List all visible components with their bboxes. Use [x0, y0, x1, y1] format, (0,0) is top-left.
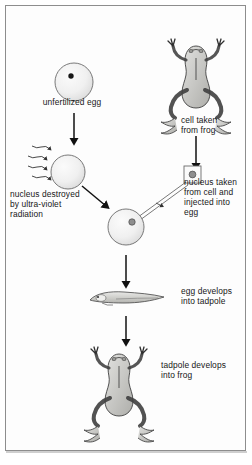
- tadpole-illustration: [90, 292, 164, 305]
- figure-border: unfertilized egg cell taken from frog nu…: [5, 5, 246, 451]
- cloned-frog-illustration: [84, 347, 154, 442]
- diagram-artwork: [6, 6, 247, 452]
- label-cell-taken-from-frog: cell taken from frog: [181, 116, 252, 136]
- label-nucleus-destroyed: nucleus destroyed by ultra-violet radiat…: [10, 190, 102, 220]
- scanned-figure: unfertilized egg cell taken from frog nu…: [0, 0, 252, 465]
- label-nucleus-taken-injected: nucleus taken from cell and injected int…: [184, 178, 252, 218]
- label-egg-develops-into-tadpole: egg develops into tadpole: [181, 287, 252, 307]
- label-unfertilized-egg: unfertilized egg: [24, 98, 120, 108]
- label-tadpole-develops-into-frog: tadpole develops into frog: [161, 361, 252, 381]
- micropipette-illustration: [134, 182, 188, 223]
- uv-ray-arrows: [28, 146, 50, 179]
- unfertilized-egg-illustration: [55, 63, 93, 101]
- recipient-egg-illustration: [108, 209, 144, 245]
- irradiated-egg-illustration: [51, 155, 85, 189]
